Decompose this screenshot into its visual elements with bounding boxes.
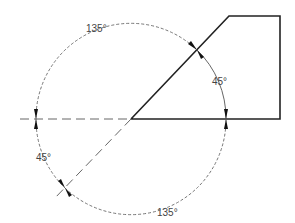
label-45-right: 45°	[212, 76, 227, 87]
label-45-left: 45°	[36, 152, 51, 163]
arc-135-top	[36, 23, 197, 119]
label-135-top: 135°	[86, 23, 107, 34]
angle-dimension-drawing: 135° 45° 45° 135°	[0, 0, 295, 223]
label-135-bottom: 135°	[157, 207, 178, 218]
object-outline	[131, 16, 280, 119]
arc-135-bottom	[65, 119, 226, 215]
diagonal-extension-line	[54, 119, 131, 199]
